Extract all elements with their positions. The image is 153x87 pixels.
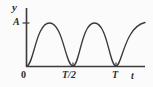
half-period-label: T/2	[62, 70, 76, 80]
origin-label: 0	[21, 70, 26, 80]
rectified-sine-curve	[27, 23, 146, 67]
period-label: T	[112, 70, 118, 80]
amplitude-label: A	[13, 17, 20, 27]
y-axis-label: y	[12, 2, 17, 13]
rectified-sine-figure: y A 0 T/2 T t	[0, 0, 153, 87]
x-axis-label: t	[131, 71, 134, 81]
